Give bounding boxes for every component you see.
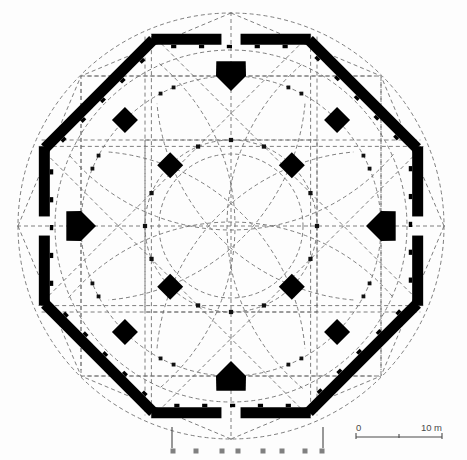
central-column-dot: [262, 303, 266, 307]
plan-drawing-canvas: 0 10 m: [0, 0, 467, 460]
intermediate-column-dot: [362, 154, 366, 158]
outer-wall-segment-5a: [39, 236, 50, 306]
floor-plan-figure: 0 10 m: [0, 0, 467, 460]
central-column-dot: [308, 257, 312, 261]
intermediate-column-dot: [368, 167, 372, 171]
central-column-dot: [262, 144, 266, 148]
wall-pilaster: [50, 197, 53, 202]
wall-pilaster: [171, 45, 176, 48]
intermediate-column-dot: [287, 363, 291, 367]
wall-pilaster: [258, 404, 263, 407]
central-column-dot: [196, 303, 200, 307]
intermediate-column-dot: [368, 282, 372, 286]
wall-pilaster: [286, 404, 291, 407]
wall-pilaster: [283, 45, 288, 48]
plinth-marker: [220, 449, 225, 454]
intermediate-column-dot: [91, 167, 95, 171]
intermediate-column-dot: [159, 357, 163, 361]
scale-bar-start-label: 0: [356, 422, 361, 433]
plinth-marker: [171, 449, 176, 454]
central-column-dot: [229, 138, 233, 142]
wall-pilaster: [227, 45, 232, 48]
intermediate-column-dot: [159, 92, 163, 96]
wall-pilaster: [199, 45, 204, 48]
intermediate-column-dot: [97, 154, 101, 158]
wall-pilaster: [409, 250, 412, 255]
wall-pilaster: [255, 45, 260, 48]
outer-wall-segment-1b: [412, 236, 423, 306]
wall-pilaster: [174, 404, 179, 407]
intermediate-column-dot: [172, 363, 176, 367]
wall-pilaster: [50, 281, 53, 286]
plinth-marker: [194, 449, 199, 454]
wall-pilaster: [50, 225, 53, 230]
intermediate-column-dot: [362, 295, 366, 299]
plinth-marker: [261, 449, 266, 454]
plinth-marker: [303, 449, 308, 454]
intermediate-column-dot: [91, 282, 95, 286]
intermediate-column-dot: [300, 92, 304, 96]
outer-wall-segment-3b: [151, 407, 221, 418]
outer-wall-segment-7a: [151, 34, 221, 45]
outer-wall-segment-3a: [241, 407, 311, 418]
plinth-marker: [320, 449, 325, 454]
intermediate-column-dot: [300, 357, 304, 361]
wall-pilaster: [409, 222, 412, 227]
wall-pilaster: [409, 278, 412, 283]
intermediate-column-dot: [97, 295, 101, 299]
intermediate-column-dot: [172, 86, 176, 90]
central-column-dot: [315, 224, 319, 228]
scale-bar-end-label: 10 m: [421, 422, 442, 433]
central-column-dot: [196, 144, 200, 148]
central-column-dot: [229, 310, 233, 314]
outer-wall-segment-5b: [39, 146, 50, 216]
outer-wall-segment-7b: [241, 34, 311, 45]
outer-wall-segment-1a: [412, 146, 423, 216]
intermediate-column-dot: [287, 86, 291, 90]
plinth-marker: [236, 449, 241, 454]
wall-pilaster: [230, 404, 235, 407]
wall-pilaster: [202, 404, 207, 407]
wall-pilaster: [409, 194, 412, 199]
wall-pilaster: [50, 253, 53, 258]
wall-pilaster: [409, 166, 412, 171]
central-column-dot: [149, 257, 153, 261]
wall-pilaster: [50, 169, 53, 174]
plinth-marker: [280, 449, 285, 454]
central-column-dot: [308, 191, 312, 195]
central-column-dot: [149, 191, 153, 195]
central-column-dot: [143, 224, 147, 228]
